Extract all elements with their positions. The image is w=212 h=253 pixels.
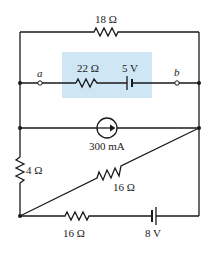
junction-dot xyxy=(197,126,201,130)
battery-8v xyxy=(152,207,156,225)
label-a: a xyxy=(37,67,43,79)
terminal-b xyxy=(175,81,179,85)
label-300ma: 300 mA xyxy=(89,140,125,152)
current-source-300ma xyxy=(97,118,117,138)
highlight-box xyxy=(62,52,152,98)
resistor-18-ohm xyxy=(20,28,199,36)
resistor-4-ohm xyxy=(16,157,24,183)
label-18-ohm: 18 Ω xyxy=(95,13,117,25)
label-5v: 5 V xyxy=(122,62,138,74)
label-16-ohm-diagonal: 16 Ω xyxy=(113,181,135,193)
label-8v: 8 V xyxy=(145,227,161,239)
label-22-ohm: 22 Ω xyxy=(77,62,99,74)
junction-dot xyxy=(197,81,201,85)
label-4-ohm: 4 Ω xyxy=(26,164,42,176)
junction-dot xyxy=(18,126,22,130)
resistor-16-ohm-bottom xyxy=(20,212,152,220)
junction-dot xyxy=(18,214,22,218)
junction-dot xyxy=(18,81,22,85)
terminal-a xyxy=(38,81,42,85)
label-16-ohm-bottom: 16 Ω xyxy=(63,227,85,239)
label-b: b xyxy=(174,66,180,78)
circuit-diagram: 18 Ω a b 22 Ω 5 V 300 mA 4 Ω 16 Ω 16 Ω 8… xyxy=(0,0,212,253)
